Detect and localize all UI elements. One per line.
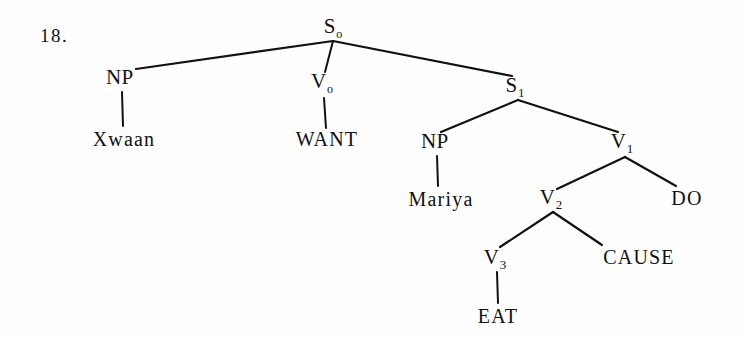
node-s1-subscript: 1 xyxy=(518,85,525,100)
node-s0-subscript: o xyxy=(336,27,343,41)
node-np-subject-label: NP xyxy=(106,65,134,89)
node-np-object-subscript xyxy=(449,141,450,156)
tree-edges-layer xyxy=(0,0,747,339)
tree-diagram-page: 18. So NP Vo S1 Xwaan WANT NP V1 Mariya … xyxy=(0,0,747,339)
node-v0-subscript: o xyxy=(327,82,334,96)
tree-edge-s0-to-np0 xyxy=(136,41,333,69)
node-np-object-label: NP xyxy=(421,129,449,153)
tree-edge-v2-to-v3 xyxy=(500,212,553,247)
node-v0: Vo xyxy=(311,71,333,95)
tree-edge-s0-to-s1 xyxy=(333,41,512,76)
tree-edge-np1-to-mariya xyxy=(437,156,438,186)
node-v1-subscript: 1 xyxy=(626,141,633,156)
tree-edge-s1-to-np1 xyxy=(441,100,518,132)
node-v2-subscript: 2 xyxy=(555,197,562,212)
node-v2: V2 xyxy=(540,187,563,211)
tree-edge-np0-to-xwaan xyxy=(122,92,123,126)
tree-edge-v1-to-do xyxy=(625,157,676,186)
node-s0-label: S xyxy=(324,14,336,38)
terminal-mariya: Mariya xyxy=(409,189,474,209)
terminal-cause: CAUSE xyxy=(603,247,675,267)
tree-edge-v1-to-v2 xyxy=(557,157,625,189)
node-v0-label: V xyxy=(311,69,327,93)
terminal-want: WANT xyxy=(296,129,359,149)
item-number-label: 18. xyxy=(40,26,68,45)
terminal-xwaan: Xwaan xyxy=(93,129,156,149)
node-np-object: NP xyxy=(421,131,449,155)
node-s1: S1 xyxy=(505,75,524,99)
tree-edge-v0-to-want xyxy=(324,98,326,128)
node-s0: So xyxy=(324,16,343,40)
node-v1: V1 xyxy=(611,131,634,155)
node-s1-label: S xyxy=(505,73,517,97)
tree-edge-v2-to-cause xyxy=(553,212,602,245)
tree-edge-s0-to-v0 xyxy=(325,41,333,72)
tree-edge-v3-to-eat xyxy=(497,272,498,303)
node-np-subject: NP xyxy=(106,67,134,91)
node-v2-label: V xyxy=(540,185,556,209)
node-np-subject-subscript xyxy=(134,77,135,92)
node-v1-label: V xyxy=(611,129,627,153)
node-v3-subscript: 3 xyxy=(499,257,506,272)
terminal-eat: EAT xyxy=(478,306,518,326)
node-v3: V3 xyxy=(484,247,507,271)
node-v3-label: V xyxy=(484,245,500,269)
terminal-do: DO xyxy=(671,188,702,208)
tree-edge-s1-to-v1 xyxy=(518,100,618,132)
